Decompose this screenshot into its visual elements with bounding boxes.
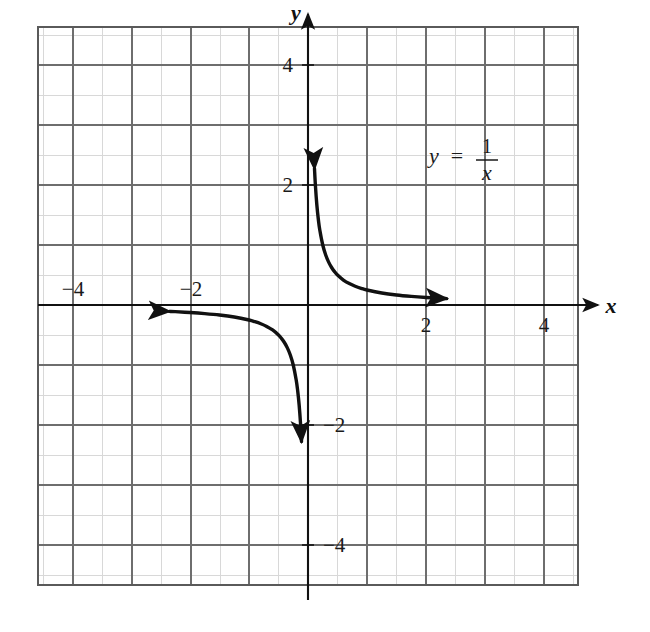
- equation-denominator: x: [481, 160, 492, 185]
- equation-lhs: y: [427, 143, 439, 168]
- x-tick-label-4: 4: [539, 313, 550, 337]
- x-tick-label-2: 2: [421, 313, 432, 337]
- y-tick-label-neg4: −4: [323, 533, 346, 557]
- graph-figure: x y −4 −2 2 4 4 2 −2 −4 y = 1 x: [0, 0, 650, 632]
- equation-operator: =: [451, 143, 463, 168]
- x-axis-label: x: [605, 293, 617, 318]
- y-tick-label-neg2: −2: [323, 413, 345, 437]
- y-tick-label-4: 4: [283, 53, 294, 77]
- equation-numerator: 1: [482, 135, 492, 157]
- coordinate-plane-svg: x y −4 −2 2 4 4 2 −2 −4 y = 1 x: [0, 0, 650, 632]
- y-axis-label: y: [288, 0, 301, 25]
- x-tick-label-neg4: −4: [62, 277, 85, 301]
- y-tick-label-2: 2: [283, 173, 294, 197]
- x-tick-label-neg2: −2: [180, 277, 202, 301]
